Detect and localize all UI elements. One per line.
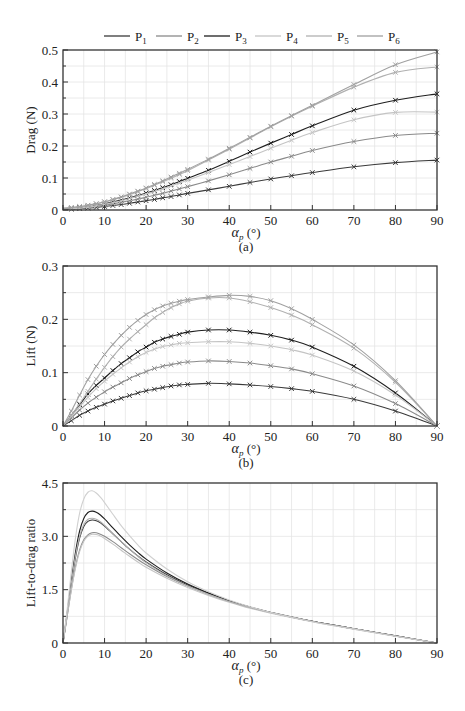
legend-item-p3: P3	[204, 29, 247, 46]
y-axis: 00.10.20.30.40.5	[42, 43, 68, 218]
x-marker	[152, 307, 157, 312]
x-tick-label: 20	[140, 646, 153, 661]
x-marker	[119, 333, 124, 338]
y-tick-label: 0	[52, 636, 59, 651]
y-tick-label: 0	[52, 419, 59, 434]
y-tick-label: 0.3	[42, 259, 58, 274]
x-tick-label: 90	[431, 429, 444, 444]
x-tick-label: 30	[181, 646, 194, 661]
x-marker	[86, 401, 91, 406]
x-marker	[136, 318, 141, 323]
x-marker	[94, 386, 99, 391]
legend-item-p6: P6	[357, 29, 400, 46]
x-tick-label: 60	[306, 213, 319, 228]
legend-item-p2: P2	[156, 29, 199, 46]
y-tick-label: 0.2	[42, 139, 58, 154]
x-marker	[86, 395, 91, 400]
x-tick-label: 0	[60, 429, 67, 444]
chart-caption: (c)	[239, 672, 253, 687]
x-marker	[77, 413, 82, 418]
legend-item-p5: P5	[306, 29, 349, 46]
x-tick-label: 60	[306, 429, 319, 444]
x-tick-label: 50	[264, 213, 277, 228]
y-axis: 01.53.04.5	[42, 476, 68, 651]
chart-b: 010203040506070809000.10.20.3Lift (N)αp …	[23, 259, 444, 471]
x-tick-label: 60	[306, 646, 319, 661]
x-tick-label: 80	[389, 646, 402, 661]
x-tick-label: 70	[347, 213, 360, 228]
legend-label: P3	[235, 29, 247, 46]
x-marker	[119, 381, 124, 386]
x-marker	[94, 405, 99, 410]
y-axis-title: Lift (N)	[23, 326, 38, 367]
y-tick-label: 0.4	[42, 75, 59, 90]
x-marker	[119, 361, 124, 366]
x-marker	[127, 376, 132, 381]
legend-item-p1: P1	[104, 29, 147, 46]
x-tick-label: 20	[140, 213, 153, 228]
x-tick-label: 10	[98, 213, 111, 228]
x-marker	[136, 373, 141, 378]
y-tick-label: 0.1	[42, 365, 58, 380]
legend-item-p4: P4	[255, 29, 298, 46]
chart-a: 010203040506070809000.10.20.30.40.5Drag …	[23, 43, 444, 255]
x-marker	[94, 377, 99, 382]
x-marker	[86, 389, 91, 394]
y-axis-title: Drag (N)	[23, 106, 38, 153]
legend-label: P6	[388, 29, 400, 46]
x-marker	[119, 345, 124, 350]
series-p3	[63, 92, 439, 211]
y-axis: 00.10.20.3	[42, 259, 68, 434]
x-tick-label: 80	[389, 213, 402, 228]
x-marker	[136, 329, 141, 334]
legend-label: P1	[135, 29, 147, 46]
grid	[63, 266, 437, 426]
x-marker	[127, 337, 132, 342]
x-marker	[136, 350, 141, 355]
chart-caption: (a)	[239, 239, 253, 254]
x-tick-label: 0	[60, 646, 67, 661]
series-group	[63, 50, 439, 212]
x-tick-label: 70	[347, 646, 360, 661]
x-tick-label: 0	[60, 213, 67, 228]
x-marker	[160, 310, 165, 315]
series-group	[63, 293, 439, 428]
x-marker	[69, 409, 74, 414]
y-tick-label: 0.3	[42, 107, 58, 122]
y-tick-label: 0.2	[42, 312, 58, 327]
series-p1	[63, 158, 439, 212]
y-tick-label: 0	[52, 203, 59, 218]
y-tick-label: 1.5	[42, 582, 58, 597]
x-tick-label: 70	[347, 429, 360, 444]
legend-label: P5	[337, 29, 349, 46]
chart-c: 010203040506070809001.53.04.5Lift-to-dra…	[23, 476, 444, 688]
y-tick-label: 0.1	[42, 171, 58, 186]
x-marker	[86, 409, 91, 414]
x-marker	[127, 360, 132, 365]
x-tick-label: 30	[181, 213, 194, 228]
legend: P1P2P3P4P5P6	[104, 29, 400, 46]
x-tick-label: 10	[98, 646, 111, 661]
legend-label: P4	[286, 29, 298, 46]
x-marker	[119, 366, 124, 371]
x-marker	[111, 385, 116, 390]
x-tick-label: 20	[140, 429, 153, 444]
x-marker	[86, 377, 91, 382]
x-tick-label: 10	[98, 429, 111, 444]
x-marker	[94, 395, 99, 400]
grid	[63, 483, 437, 643]
x-marker	[127, 325, 132, 330]
series-p1	[63, 381, 439, 428]
y-tick-label: 4.5	[42, 476, 58, 491]
chart-caption: (b)	[238, 455, 253, 470]
x-marker	[160, 304, 165, 309]
grid	[63, 50, 437, 210]
x-marker	[169, 305, 174, 310]
x-marker	[127, 355, 132, 360]
y-tick-label: 3.0	[42, 529, 58, 544]
x-marker	[77, 393, 82, 398]
x-tick-label: 90	[431, 646, 444, 661]
x-tick-label: 30	[181, 429, 194, 444]
figure-canvas: P1P2P3P4P5P6010203040506070809000.10.20.…	[0, 0, 465, 711]
x-marker	[111, 354, 116, 359]
